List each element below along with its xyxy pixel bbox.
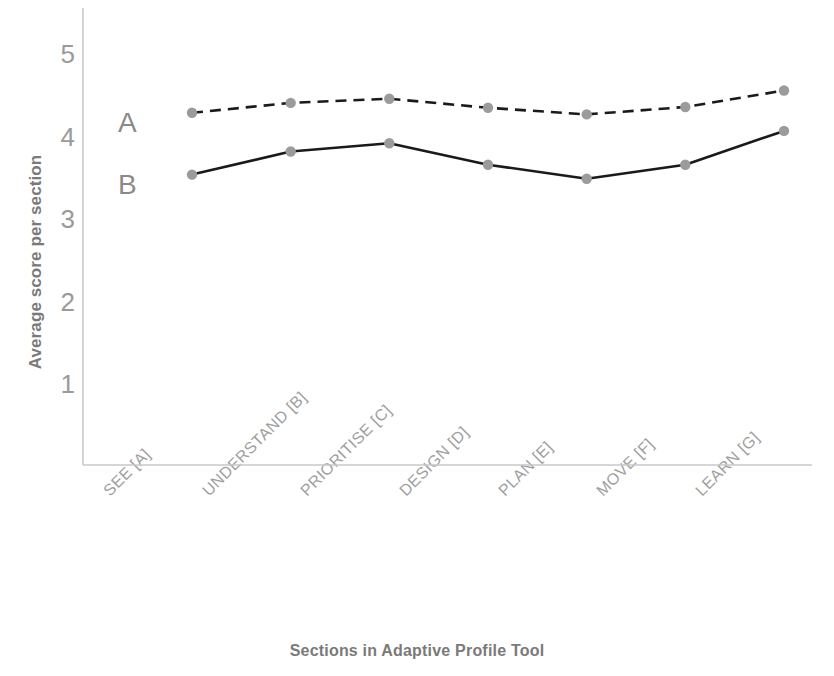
data-point-b-0 (187, 169, 197, 179)
data-point-a-4 (582, 109, 592, 119)
series-line-b (192, 131, 784, 179)
data-point-b-3 (483, 160, 493, 170)
series-layer (187, 85, 789, 184)
data-point-a-3 (483, 103, 493, 113)
data-point-b-2 (384, 138, 394, 148)
data-point-a-1 (286, 98, 296, 108)
data-point-a-0 (187, 108, 197, 118)
chart-container: Average score per section 5 4 3 2 1 A B … (0, 0, 834, 676)
data-point-b-6 (779, 126, 789, 136)
data-point-b-4 (582, 174, 592, 184)
data-point-a-2 (384, 94, 394, 104)
data-point-a-6 (779, 85, 789, 95)
data-point-b-1 (286, 146, 296, 156)
data-point-b-5 (680, 160, 690, 170)
axis-lines (83, 8, 812, 465)
data-point-a-5 (680, 102, 690, 112)
plot-area (0, 0, 834, 676)
